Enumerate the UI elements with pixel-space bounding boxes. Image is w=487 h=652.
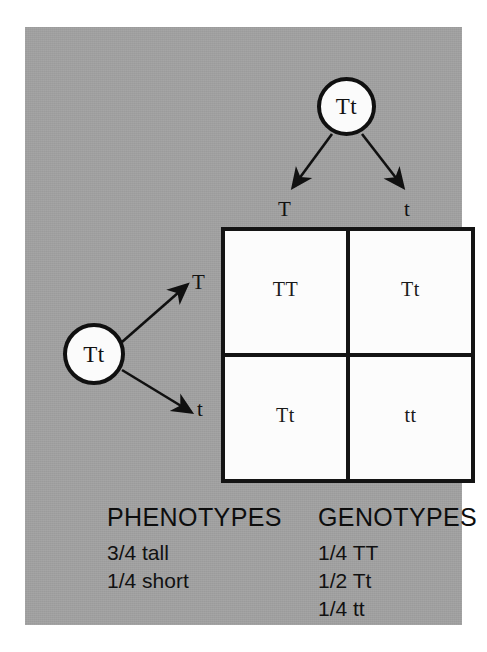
gamete-label-top-T: T — [278, 199, 291, 220]
phenotypes-heading: PHENOTYPES — [107, 505, 282, 530]
arrow-left-parent-to-T — [122, 285, 187, 342]
parent-genotype-left: Tt — [83, 343, 104, 366]
parent-circle-icon-left: Tt — [63, 323, 125, 385]
genotypes-item-2: 1/4 tt — [318, 595, 477, 623]
parent-circle-icon-top: Tt — [317, 77, 376, 136]
punnett-square: TT Tt Tt tt — [221, 227, 475, 483]
phenotypes-item-1: 1/4 short — [107, 567, 282, 595]
genotypes-heading: GENOTYPES — [318, 505, 477, 530]
phenotypes-legend: PHENOTYPES 3/4 tall 1/4 short — [107, 505, 282, 595]
punnett-cell-0: TT — [225, 231, 346, 353]
gamete-label-top-t: t — [404, 199, 410, 220]
genotypes-legend: GENOTYPES 1/4 TT 1/2 Tt 1/4 tt — [318, 505, 477, 623]
phenotypes-item-0: 3/4 tall — [107, 539, 282, 567]
punnett-cell-1: Tt — [350, 231, 471, 353]
figure-panel: Tt Tt T t T t TT Tt Tt tt PHENOTYPES 3/4… — [25, 27, 462, 625]
punnett-cell-3: tt — [350, 357, 471, 479]
genotypes-item-0: 1/4 TT — [318, 539, 477, 567]
genotypes-item-1: 1/2 Tt — [318, 567, 477, 595]
punnett-cell-2: Tt — [225, 357, 346, 479]
arrow-top-parent-to-t — [362, 134, 403, 187]
gamete-label-left-T: T — [192, 272, 205, 293]
gamete-label-left-t: t — [197, 399, 203, 420]
arrow-left-parent-to-t — [122, 370, 191, 412]
arrow-top-parent-to-T — [293, 134, 332, 187]
parent-genotype-top: Tt — [336, 95, 357, 118]
